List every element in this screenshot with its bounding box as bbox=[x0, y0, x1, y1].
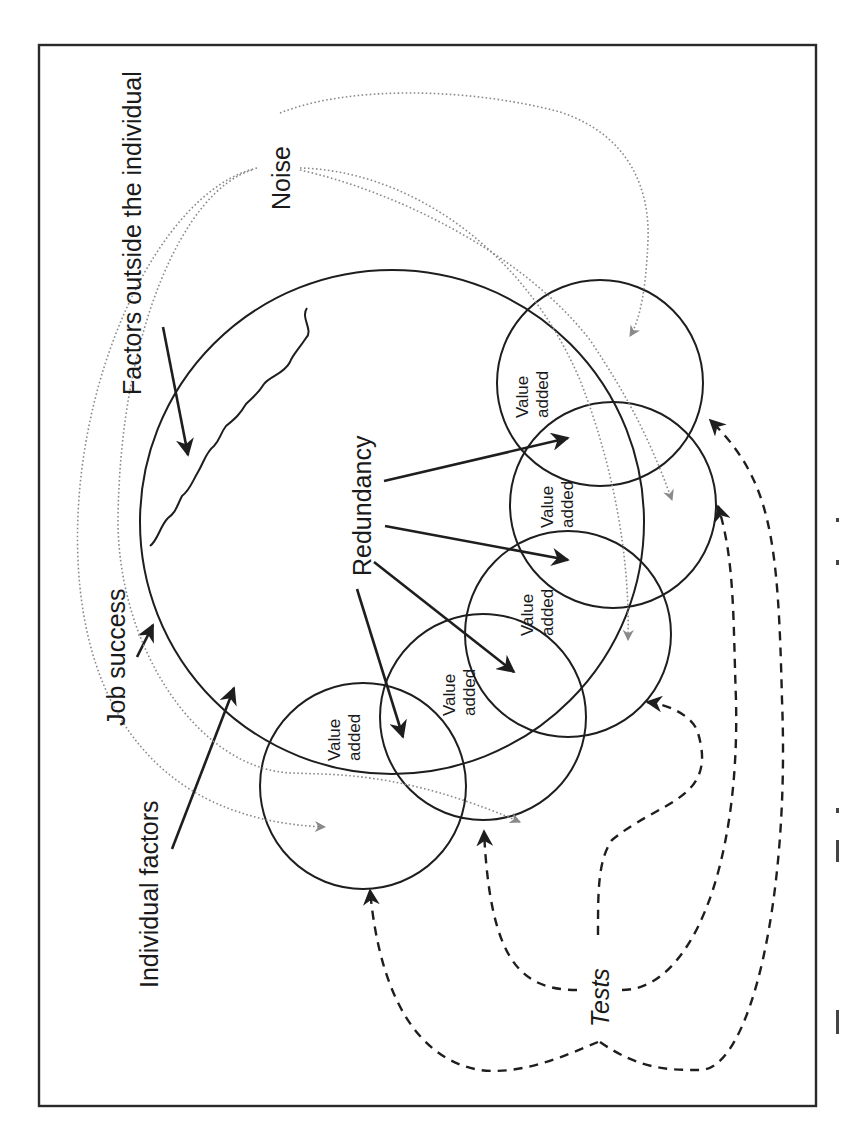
test-arrow-3 bbox=[598, 702, 702, 935]
value-label-2b: added bbox=[460, 669, 479, 716]
value-label-3a: Value bbox=[518, 594, 537, 636]
noise-arrow-5 bbox=[280, 93, 648, 336]
noise-arrow-1 bbox=[78, 168, 325, 827]
value-added-circles bbox=[260, 280, 716, 889]
job-success-diagram: Factors outside the individual Noise Job… bbox=[0, 0, 841, 1131]
value-label-5a: Value bbox=[513, 376, 532, 418]
value-label-1b: added bbox=[345, 714, 364, 761]
noise-arrow-2 bbox=[118, 170, 520, 822]
label-noise: Noise bbox=[267, 146, 295, 210]
redundancy-arrow-4 bbox=[384, 438, 568, 481]
test-arrow-4 bbox=[622, 506, 736, 990]
label-individual-factors: Individual factors bbox=[135, 800, 163, 988]
redundancy-arrow-3 bbox=[385, 526, 568, 560]
value-circle-2 bbox=[380, 614, 586, 820]
factors-outside-arrow bbox=[163, 327, 188, 455]
test-arrow-5 bbox=[600, 420, 783, 1070]
label-tests: Tests bbox=[586, 968, 614, 1027]
value-label-1a: Value bbox=[325, 719, 344, 761]
value-label-4b: added bbox=[558, 481, 577, 528]
individual-factors-arrow bbox=[172, 688, 234, 849]
test-arrow-1 bbox=[370, 890, 598, 1071]
test-arrow-2 bbox=[484, 831, 577, 990]
value-label-5b: added bbox=[533, 371, 552, 418]
label-redundancy: Redundancy bbox=[348, 435, 376, 576]
value-label-4a: Value bbox=[538, 486, 557, 528]
cut-off-caption bbox=[836, 518, 839, 1034]
label-job-success: Job success bbox=[102, 588, 130, 726]
redundancy-arrow-2 bbox=[374, 562, 514, 672]
value-label-3b: added bbox=[538, 589, 557, 636]
value-label-2a: Value bbox=[440, 674, 459, 716]
job-success-arrow bbox=[137, 625, 153, 657]
factors-outside-boundary bbox=[150, 308, 309, 546]
label-factors-outside: Factors outside the individual bbox=[118, 71, 146, 395]
